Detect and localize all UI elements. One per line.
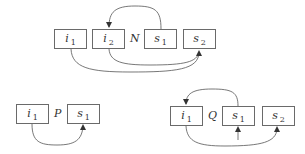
arrow-N-i1-to-s2 [71,49,199,72]
P-box-i1: i1 [16,104,49,124]
N-box-i1: i1 [54,29,87,49]
diagram-name-P: P [54,107,61,120]
box-sub: 1 [71,38,76,47]
P-box-s1: s1 [67,104,100,124]
box-var: i [27,107,31,120]
arrowhead-icon [80,124,86,130]
diagram-canvas: i1 i2 N s1 s2 i1 P s1 i1 Q s1 s2 [0,0,305,154]
Q-box-i1: i1 [170,106,203,126]
arrowhead-icon [106,22,112,28]
box-sub: 1 [162,38,167,47]
arrowhead-icon [196,50,202,56]
N-box-i2: i2 [92,29,125,49]
N-box-s2: s2 [183,29,216,49]
box-var: s [154,32,160,45]
arrow-Q-i1-to-s2 [186,126,277,146]
arrowhead-icon [183,99,189,105]
box-sub: 2 [280,115,285,124]
Q-box-s2: s2 [262,106,295,126]
arrows-layer [0,0,305,154]
diagram-name-N: N [130,32,140,45]
box-sub: 1 [33,113,38,122]
arrow-N-s1-to-i2 [109,6,161,29]
box-sub: 1 [240,115,245,124]
box-var: s [193,32,199,45]
box-var: i [181,109,185,122]
arrow-P-i1-to-s1 [32,124,83,145]
arrowhead-icon [235,126,241,132]
box-var: s [272,109,278,122]
box-var: s [77,107,83,120]
Q-box-s1: s1 [222,106,255,126]
box-var: i [103,32,107,45]
box-sub: 1 [187,115,192,124]
arrow-Q-s1-to-i1 [186,89,238,106]
box-sub: 2 [109,38,114,47]
box-var: s [232,109,238,122]
box-var: i [65,32,69,45]
box-sub: 1 [85,113,90,122]
box-sub: 2 [201,38,206,47]
arrowhead-icon [274,126,280,132]
diagram-name-Q: Q [208,109,217,122]
N-box-s1: s1 [144,29,177,49]
arrow-N-i2-to-s2 [109,49,199,65]
